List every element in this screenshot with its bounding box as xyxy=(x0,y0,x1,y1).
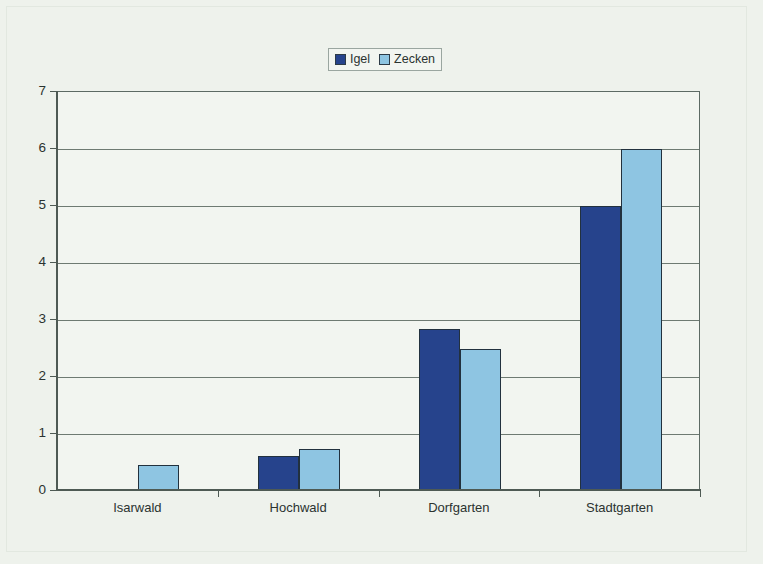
x-axis-tick-label: Stadtgarten xyxy=(539,501,700,515)
x-axis-tick xyxy=(539,491,540,497)
x-axis-tick-label: Isarwald xyxy=(57,501,218,515)
y-axis-tick xyxy=(50,490,57,491)
bar-zecken-hochwald xyxy=(299,449,340,491)
y-axis-tick xyxy=(50,319,57,320)
y-axis-tick-label: 2 xyxy=(20,369,46,383)
y-axis-tick xyxy=(50,91,57,92)
plot-area xyxy=(57,91,700,490)
legend-label-zecken: Zecken xyxy=(394,53,435,66)
x-axis-tick-label: Dorfgarten xyxy=(379,501,540,515)
y-axis xyxy=(56,91,58,491)
y-axis-tick-label: 3 xyxy=(20,312,46,326)
y-axis-tick xyxy=(50,205,57,206)
bars-layer xyxy=(58,92,699,489)
bar-igel-hochwald xyxy=(258,456,299,491)
legend-swatch-zecken xyxy=(379,54,390,65)
bar-igel-dorfgarten xyxy=(419,329,460,491)
legend-item-igel: Igel xyxy=(335,53,370,66)
bar-zecken-stadtgarten xyxy=(621,149,662,491)
x-axis-tick xyxy=(379,491,380,497)
y-axis-tick-label: 4 xyxy=(20,255,46,269)
chart-container: Igel Zecken 01234567 IsarwaldHochwaldDor… xyxy=(0,0,763,564)
bar-igel-stadtgarten xyxy=(580,206,621,491)
y-axis-tick xyxy=(50,148,57,149)
y-axis-tick-label: 5 xyxy=(20,198,46,212)
y-axis-tick xyxy=(50,376,57,377)
x-axis-tick xyxy=(700,491,701,497)
bar-zecken-isarwald xyxy=(138,465,179,491)
y-axis-tick-label: 0 xyxy=(20,483,46,497)
x-axis-tick-label: Hochwald xyxy=(218,501,379,515)
y-axis-tick-label: 6 xyxy=(20,141,46,155)
y-axis-tick-label: 1 xyxy=(20,426,46,440)
chart-legend: Igel Zecken xyxy=(328,48,442,71)
x-axis-tick xyxy=(218,491,219,497)
bar-zecken-dorfgarten xyxy=(460,349,501,492)
legend-item-zecken: Zecken xyxy=(379,53,435,66)
y-axis-tick xyxy=(50,433,57,434)
y-axis-tick-label: 7 xyxy=(20,84,46,98)
legend-swatch-igel xyxy=(335,54,346,65)
y-axis-labels: 01234567 xyxy=(14,0,46,564)
legend-label-igel: Igel xyxy=(350,53,370,66)
y-axis-tick xyxy=(50,262,57,263)
